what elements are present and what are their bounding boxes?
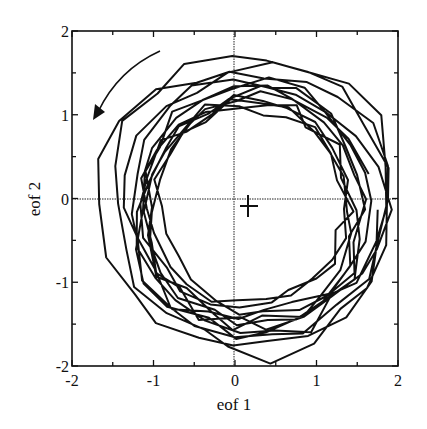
trajectory-line <box>98 56 392 364</box>
y-tick-label: 2 <box>61 23 69 40</box>
x-tick-label: 1 <box>313 372 321 389</box>
x-tick-label: -1 <box>147 372 160 389</box>
y-tick-label: 0 <box>61 191 69 208</box>
y-tick-label: 1 <box>61 107 69 124</box>
y-tick-label: -2 <box>56 358 69 375</box>
x-tick-label: 2 <box>394 372 402 389</box>
y-axis-title: eof 2 <box>25 182 44 216</box>
plot-area <box>98 56 392 364</box>
rotation-arrow-icon <box>93 51 160 120</box>
y-tick-label: -1 <box>56 274 69 291</box>
x-tick-label: 0 <box>231 372 239 389</box>
chart: -2-1012-2-1012 eof 1 eof 2 <box>0 0 427 429</box>
x-axis-title: eof 1 <box>217 395 251 414</box>
center-cross-marker <box>240 195 258 217</box>
